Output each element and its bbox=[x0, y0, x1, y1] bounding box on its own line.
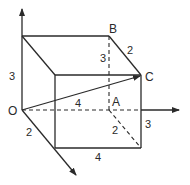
dim-bottom-width: 4 bbox=[95, 151, 101, 163]
dim-OA-width: 4 bbox=[75, 97, 81, 109]
dim-AB-height: 3 bbox=[100, 52, 106, 64]
dim-left-height: 3 bbox=[9, 70, 15, 82]
y-axis-arrow bbox=[22, 110, 76, 175]
label-O: O bbox=[8, 104, 17, 118]
dim-O-depth: 2 bbox=[26, 126, 32, 138]
dim-right-height: 3 bbox=[145, 118, 151, 130]
cuboid-diagram: O A B C 3 3 2 4 2 2 3 4 bbox=[0, 0, 190, 185]
diagram-canvas: O A B C 3 3 2 4 2 2 3 4 bbox=[0, 0, 190, 185]
label-B: B bbox=[109, 22, 117, 36]
dim-BC-depth: 2 bbox=[127, 44, 133, 56]
edge-top-left-depth bbox=[22, 36, 55, 75]
label-C: C bbox=[145, 70, 154, 84]
edge-BC bbox=[109, 36, 141, 75]
dim-A-depth: 2 bbox=[112, 124, 118, 136]
label-A: A bbox=[112, 95, 120, 109]
